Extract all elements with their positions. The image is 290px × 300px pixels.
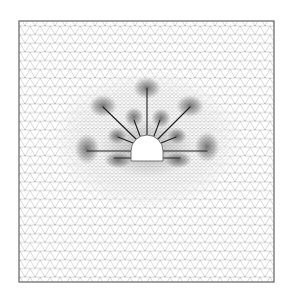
mesh-area [0, 0, 290, 300]
shading-zone [124, 107, 144, 127]
mesh-figure [0, 0, 290, 300]
shading-zone [89, 95, 117, 117]
shading-zone [194, 132, 219, 163]
mesh-diagram [0, 0, 290, 300]
shading-zone [176, 95, 204, 117]
shading-zone [107, 128, 127, 145]
shading-zone [151, 108, 171, 128]
shading-zone [164, 152, 192, 169]
shading-zone [104, 152, 132, 169]
shading-zone [74, 134, 99, 165]
shading-zone [167, 128, 187, 145]
